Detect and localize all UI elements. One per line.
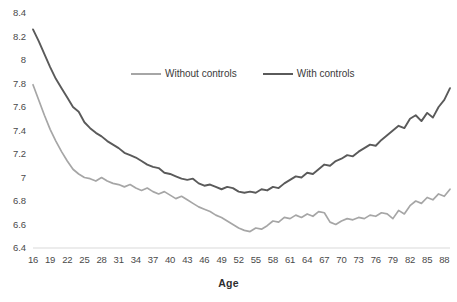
x-axis-tick-label: 88 xyxy=(434,254,454,265)
legend-item-without-controls: Without controls xyxy=(131,68,237,79)
y-axis-tick-label: 7.6 xyxy=(0,102,26,112)
x-axis-title: Age xyxy=(0,277,457,289)
y-axis-tick-label: 7.8 xyxy=(0,79,26,89)
y-axis-tick-label: 6.6 xyxy=(0,220,26,230)
y-axis-tick-label: 8 xyxy=(0,55,26,65)
legend-line-icon-without-controls xyxy=(131,73,161,75)
legend-item-with-controls: With controls xyxy=(263,68,355,79)
series-line-without-controls xyxy=(33,85,450,232)
series-line-with-controls xyxy=(33,29,450,192)
y-axis-tick-label: 6.8 xyxy=(0,196,26,206)
y-axis-tick-label: 7.2 xyxy=(0,149,26,159)
chart-container: 8.48.287.87.67.47.276.86.66.4 1619222528… xyxy=(0,0,457,302)
legend-label-with-controls: With controls xyxy=(297,68,355,79)
y-axis-tick-label: 6.4 xyxy=(0,243,26,253)
y-axis-tick-label: 8.4 xyxy=(0,8,26,18)
legend-line-icon-with-controls xyxy=(263,73,293,75)
y-axis-tick-label: 8.2 xyxy=(0,32,26,42)
chart-legend: Without controls With controls xyxy=(131,68,355,79)
y-axis-tick-label: 7 xyxy=(0,173,26,183)
y-axis-tick-label: 7.4 xyxy=(0,126,26,136)
legend-label-without-controls: Without controls xyxy=(165,68,237,79)
